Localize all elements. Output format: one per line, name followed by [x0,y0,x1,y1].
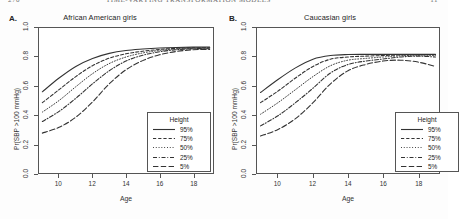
legend-item-label: 25% [428,154,441,161]
x-tick-label: 10 [268,180,286,187]
x-tick-label: 14 [117,180,135,187]
legend-line-swatch-icon [400,162,424,171]
x-tick [194,174,195,178]
legend-item-95pct[interactable]: 95% [152,125,206,134]
y-tick [252,27,256,28]
legend-item-label: 25% [180,154,193,161]
panel-a-legend-title: Height [152,116,206,123]
panel-b-title: Caucasian girls [218,13,442,22]
legend-item-5pct[interactable]: 5% [400,162,454,171]
x-tick [348,174,349,178]
x-tick-label: 10 [49,180,67,187]
legend-item-75pct[interactable]: 75% [152,134,206,143]
legend-item-label: 5% [428,163,437,170]
legend-item-label: 95% [180,126,193,133]
y-tick [34,145,38,146]
legend-item-label: 75% [428,135,441,142]
x-tick-label: 12 [83,180,101,187]
legend-line-swatch-icon [400,134,424,143]
legend-item-label: 75% [180,135,193,142]
y-tick-label: 0.8 [240,48,247,64]
y-tick [252,115,256,116]
legend-item-50pct[interactable]: 50% [400,143,454,152]
y-tick [252,145,256,146]
legend-item-95pct[interactable]: 95% [400,125,454,134]
y-tick [34,115,38,116]
y-tick [252,174,256,175]
x-tick [126,174,127,178]
panel-a-title: African American girls [0,13,212,22]
panel-a-x-axis-label: Age [38,195,214,202]
legend-item-label: 5% [180,163,189,170]
y-tick-label: 0.2 [240,136,247,152]
curve-25pct [42,49,209,122]
panel-b-x-axis-label: Age [256,195,440,202]
y-tick [252,56,256,57]
x-tick [383,174,384,178]
legend-line-swatch-icon [152,143,176,152]
legend-line-swatch-icon [152,134,176,143]
legend-item-25pct[interactable]: 25% [400,153,454,162]
x-tick-label: 18 [185,180,203,187]
legend-line-swatch-icon [152,162,176,171]
y-tick-label: 0.2 [22,136,29,152]
y-tick-label: 1.0 [240,19,247,35]
panel-b: B. Caucasian girls Pr(SBP >100 mmHg) Age… [224,0,448,219]
x-tick-label: 12 [304,180,322,187]
y-tick [252,86,256,87]
panel-b-legend-title: Height [400,116,454,123]
x-tick [58,174,59,178]
x-tick-label: 16 [151,180,169,187]
panel-a-legend: Height 95%75%50%25%5% [147,112,211,172]
y-tick-label: 0.0 [240,166,247,182]
x-tick-label: 16 [374,180,392,187]
y-tick-label: 0.0 [22,166,29,182]
y-tick [34,174,38,175]
legend-line-swatch-icon [400,143,424,152]
legend-item-75pct[interactable]: 75% [400,134,454,143]
x-tick [313,174,314,178]
legend-item-label: 50% [428,144,441,151]
panel-b-y-axis-label: Pr(SBP >100 mmHg) [231,88,238,150]
legend-item-label: 95% [428,126,441,133]
x-tick-label: 18 [410,180,428,187]
y-tick-label: 0.6 [240,77,247,93]
x-tick [419,174,420,178]
y-tick-label: 0.8 [22,48,29,64]
x-tick-label: 14 [339,180,357,187]
panel-a-y-axis-label: Pr(SBP >100 mmHg) [13,88,20,150]
y-tick [34,27,38,28]
legend-item-25pct[interactable]: 25% [152,153,206,162]
legend-item-50pct[interactable]: 50% [152,143,206,152]
curve-75pct [42,48,209,103]
legend-line-swatch-icon [400,153,424,162]
y-tick [34,86,38,87]
panel-b-legend: Height 95%75%50%25%5% [395,112,459,172]
y-tick-label: 0.4 [240,107,247,123]
legend-line-swatch-icon [152,125,176,134]
legend-line-swatch-icon [152,153,176,162]
curve-75pct [261,55,436,103]
curve-50pct [42,48,209,112]
legend-item-5pct[interactable]: 5% [152,162,206,171]
legend-line-swatch-icon [400,125,424,134]
legend-item-label: 50% [180,144,193,151]
y-tick-label: 1.0 [22,19,29,35]
x-tick [160,174,161,178]
y-tick-label: 0.4 [22,107,29,123]
x-tick [92,174,93,178]
y-tick-label: 0.6 [22,77,29,93]
y-tick [34,56,38,57]
panel-a: A. African American girls Pr(SBP >100 mm… [0,0,224,219]
x-tick [277,174,278,178]
